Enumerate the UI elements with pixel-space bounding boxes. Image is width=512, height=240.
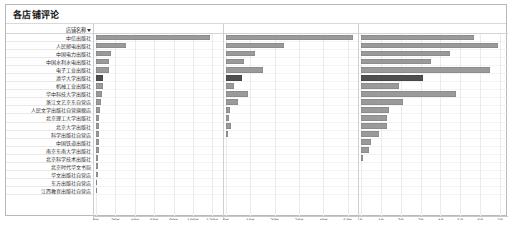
bar[interactable] bbox=[361, 147, 369, 153]
bar[interactable] bbox=[226, 123, 231, 129]
row-label[interactable]: 电子工业出版社 bbox=[6, 66, 93, 74]
bar[interactable] bbox=[96, 99, 101, 105]
bar-row[interactable] bbox=[359, 50, 508, 58]
bar-row[interactable] bbox=[94, 50, 223, 58]
bar-row[interactable] bbox=[224, 155, 358, 163]
bar[interactable] bbox=[361, 139, 371, 145]
bar-row[interactable] bbox=[224, 179, 358, 187]
bar[interactable] bbox=[226, 51, 255, 57]
bar[interactable] bbox=[361, 43, 498, 49]
bar[interactable] bbox=[226, 75, 242, 81]
bar[interactable] bbox=[361, 99, 403, 105]
bar[interactable] bbox=[361, 91, 456, 97]
bar-row[interactable] bbox=[359, 123, 508, 131]
bar-row[interactable] bbox=[94, 66, 223, 74]
row-label[interactable]: 人民文学出版社自营旗舰店 bbox=[6, 106, 93, 114]
bar[interactable] bbox=[96, 163, 98, 169]
bar-row[interactable] bbox=[359, 147, 508, 155]
bar-row[interactable] bbox=[359, 106, 508, 114]
bar[interactable] bbox=[96, 67, 109, 73]
bar[interactable] bbox=[361, 67, 490, 73]
bar-row[interactable] bbox=[94, 74, 223, 82]
bar-row[interactable] bbox=[224, 139, 358, 147]
bar-row[interactable] bbox=[359, 82, 508, 90]
bar-row[interactable] bbox=[94, 155, 223, 163]
bar[interactable] bbox=[96, 115, 99, 121]
bar-row[interactable] bbox=[224, 74, 358, 82]
row-label[interactable]: 北京时代华文书局 bbox=[6, 163, 93, 171]
bar[interactable] bbox=[226, 67, 263, 73]
row-label[interactable]: 清华大学出版社 bbox=[6, 74, 93, 82]
bar-row[interactable] bbox=[359, 179, 508, 187]
bar-row[interactable] bbox=[94, 58, 223, 66]
row-label[interactable]: 浙江文艺京东自营店 bbox=[6, 98, 93, 106]
bar[interactable] bbox=[226, 115, 229, 121]
row-label[interactable]: 北京科学技术出版社 bbox=[6, 155, 93, 163]
bar-row[interactable] bbox=[359, 66, 508, 74]
bar-row[interactable] bbox=[224, 187, 358, 195]
bar[interactable] bbox=[96, 83, 103, 89]
bar[interactable] bbox=[361, 83, 399, 89]
bar[interactable] bbox=[361, 107, 389, 113]
row-label[interactable]: 南京东南大学出版社 bbox=[6, 147, 93, 155]
row-label[interactable]: 科学出版社自营店 bbox=[6, 131, 93, 139]
bar[interactable] bbox=[361, 75, 423, 81]
bar-row[interactable] bbox=[359, 187, 508, 195]
bar-row[interactable] bbox=[359, 171, 508, 179]
row-label[interactable]: 中国电力出版社 bbox=[6, 50, 93, 58]
bar[interactable] bbox=[361, 131, 379, 137]
bar-row[interactable] bbox=[224, 123, 358, 131]
bar[interactable] bbox=[226, 43, 284, 49]
bar-row[interactable] bbox=[359, 34, 508, 42]
row-label[interactable]: 北京大学出版社 bbox=[6, 123, 93, 131]
bar-row[interactable] bbox=[94, 179, 223, 187]
bar-row[interactable] bbox=[359, 42, 508, 50]
bar[interactable] bbox=[361, 51, 450, 57]
bar[interactable] bbox=[96, 107, 100, 113]
bar-row[interactable] bbox=[94, 82, 223, 90]
bar-row[interactable] bbox=[94, 131, 223, 139]
bar[interactable] bbox=[226, 99, 238, 105]
bar-row[interactable] bbox=[359, 114, 508, 122]
row-label[interactable]: 中国水利水电出版社 bbox=[6, 58, 93, 66]
bar[interactable] bbox=[96, 43, 126, 49]
bar-row[interactable] bbox=[224, 114, 358, 122]
bar[interactable] bbox=[361, 155, 363, 161]
bar[interactable] bbox=[96, 59, 109, 65]
bar-row[interactable] bbox=[224, 147, 358, 155]
bar-row[interactable] bbox=[359, 163, 508, 171]
sort-descending-arrow-icon[interactable] bbox=[87, 29, 91, 32]
bar[interactable] bbox=[96, 131, 99, 137]
bar-row[interactable] bbox=[94, 147, 223, 155]
bar[interactable] bbox=[361, 123, 387, 129]
bar-row[interactable] bbox=[94, 123, 223, 131]
bar[interactable] bbox=[226, 107, 230, 113]
bar-row[interactable] bbox=[224, 131, 358, 139]
bar-row[interactable] bbox=[224, 42, 358, 50]
row-label[interactable]: 华中科技大学出版社 bbox=[6, 90, 93, 98]
bar[interactable] bbox=[96, 172, 98, 178]
bar[interactable] bbox=[96, 91, 102, 97]
row-label[interactable]: 中国铁道出版社 bbox=[6, 139, 93, 147]
row-label[interactable]: 江西教育出版社自营店 bbox=[6, 187, 93, 195]
row-label[interactable]: 东方出版社自营店 bbox=[6, 179, 93, 187]
bar[interactable] bbox=[96, 51, 111, 57]
bar-row[interactable] bbox=[94, 42, 223, 50]
bar-row[interactable] bbox=[359, 139, 508, 147]
bar-row[interactable] bbox=[94, 106, 223, 114]
row-label[interactable]: 华文出版社自营店 bbox=[6, 171, 93, 179]
bar[interactable] bbox=[226, 59, 244, 65]
bar[interactable] bbox=[96, 75, 103, 81]
bar-row[interactable] bbox=[224, 90, 358, 98]
bar-row[interactable] bbox=[94, 139, 223, 147]
bar-row[interactable] bbox=[224, 106, 358, 114]
row-label[interactable]: 中信出版社 bbox=[6, 34, 93, 42]
bar[interactable] bbox=[96, 139, 99, 145]
bar-row[interactable] bbox=[94, 34, 223, 42]
bar[interactable] bbox=[96, 188, 97, 194]
bar[interactable] bbox=[226, 83, 234, 89]
bar[interactable] bbox=[96, 123, 99, 129]
row-label[interactable]: 机械工业出版社 bbox=[6, 82, 93, 90]
bar[interactable] bbox=[361, 115, 387, 121]
bar-row[interactable] bbox=[94, 163, 223, 171]
